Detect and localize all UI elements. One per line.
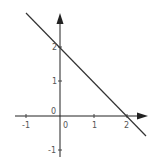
y-label-neg1: -1 <box>48 146 56 155</box>
y-label-2: 2 <box>52 43 57 52</box>
y-axis-arrow-icon <box>57 13 64 24</box>
coordinate-plot: -1 0 1 2 0 1 2 -1 <box>0 0 154 162</box>
x-label-1: 1 <box>92 121 97 130</box>
x-label-2: 2 <box>124 121 129 130</box>
function-line <box>26 13 146 136</box>
x-label-neg1: -1 <box>22 121 30 130</box>
y-label-1: 1 <box>52 77 57 86</box>
y-label-0: 0 <box>51 107 56 116</box>
x-axis-arrow-icon <box>137 113 148 120</box>
x-label-0: 0 <box>63 121 68 130</box>
